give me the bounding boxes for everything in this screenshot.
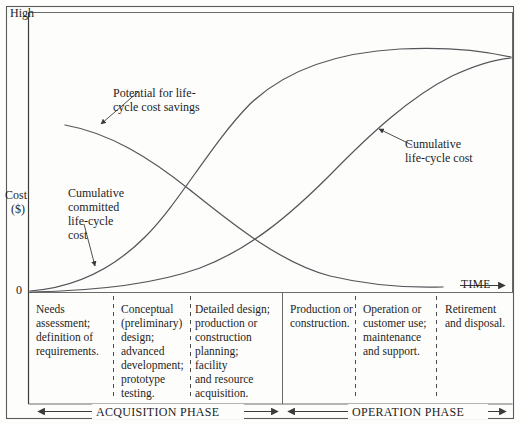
- x-axis-time-label: TIME: [461, 278, 491, 291]
- phase-cell-retirement-line2: and disposal.: [445, 317, 505, 330]
- phase-cell-detailed-design-line4: planning;: [195, 345, 238, 358]
- phase-cell-conceptual-design-line1: Conceptual: [121, 303, 173, 316]
- phase-cell-needs-assessment-line3: definition of: [36, 331, 93, 344]
- annotation-potential-savings-line2: cycle cost savings: [113, 100, 200, 114]
- annotation-cumulative-lifecycle-line2: life-cycle cost: [405, 151, 473, 165]
- curve-cumulative-lifecycle: [30, 58, 511, 292]
- annotation-cumulative-committed-line2: committed: [68, 200, 119, 214]
- phase-cell-operation-line3: maintenance: [363, 331, 421, 344]
- phase-cell-detailed-design-line2: production or: [195, 317, 257, 330]
- phase-cell-needs-assessment-line4: requirements.: [36, 345, 99, 358]
- curve-potential-savings: [65, 125, 443, 287]
- y-axis-cost-label-line2: ($): [11, 202, 25, 216]
- phase-cell-production-line1: Production or: [290, 303, 353, 316]
- phase-cell-detailed-design-line5: facility: [195, 359, 228, 372]
- phase-cell-conceptual-design-line5: development;: [121, 359, 184, 372]
- phase-cell-conceptual-design-line7: testing.: [121, 387, 155, 400]
- y-axis-cost-label-line1: Cost: [5, 188, 27, 202]
- phase-cell-needs-assessment-line1: Needs: [36, 303, 65, 316]
- phase-cell-detailed-design-line1: Detailed design;: [195, 303, 270, 316]
- annotation-cumulative-committed-line1: Cumulative: [68, 186, 124, 200]
- curve-cumulative-committed: [30, 48, 511, 291]
- phase-cell-detailed-design-line7: acquisition.: [195, 387, 248, 400]
- phase-cell-needs-assessment-line2: assessment;: [36, 317, 90, 330]
- annotation-potential-savings-line1: Potential for life-: [113, 86, 196, 100]
- operation-phase-label: OPERATION PHASE: [352, 405, 464, 419]
- origin-zero-label: 0: [16, 283, 22, 297]
- life-cycle-cost-figure: High Cost ($) 0 TIME Potential for life-…: [0, 0, 520, 425]
- y-axis-high-label: High: [10, 6, 34, 20]
- phase-cell-operation-line2: customer use;: [363, 317, 427, 330]
- annotation-cumulative-lifecycle-line1: Cumulative: [405, 137, 461, 151]
- phase-cell-operation-line1: Operation or: [363, 303, 421, 316]
- annotation-cumulative-committed-line4: cost: [68, 228, 87, 242]
- acquisition-phase-label: ACQUISITION PHASE: [96, 405, 219, 419]
- phase-cell-detailed-design-line3: construction: [195, 331, 252, 344]
- phase-cell-production-line2: construction.: [290, 317, 350, 330]
- phase-cell-conceptual-design-line3: design;: [121, 331, 154, 344]
- phase-cell-detailed-design-line6: and resource: [195, 373, 253, 386]
- phase-cell-retirement-line1: Retirement: [445, 303, 496, 316]
- phase-cell-conceptual-design-line4: advanced: [121, 345, 164, 358]
- phase-cell-conceptual-design-line2: (preliminary): [121, 317, 182, 330]
- phase-cell-operation-line4: and support.: [363, 345, 420, 358]
- phase-cell-conceptual-design-line6: prototype: [121, 373, 165, 386]
- annotation-cumulative-committed-line3: life-cycle: [68, 214, 113, 228]
